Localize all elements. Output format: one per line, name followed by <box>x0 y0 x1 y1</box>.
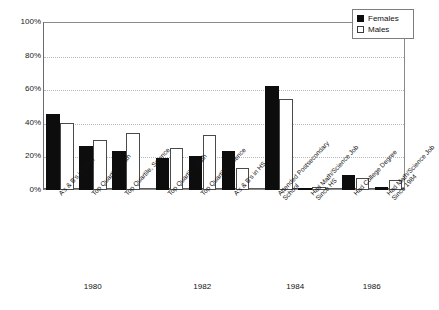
group-year-labels: 1980198219841986 <box>0 282 420 298</box>
y-tick-label: 60% <box>3 85 41 93</box>
y-tick-label: 80% <box>3 52 41 60</box>
legend: Females Males <box>352 9 414 39</box>
year-label: 1980 <box>84 282 102 291</box>
bar-females <box>46 114 60 190</box>
legend-swatch-females-icon <box>357 15 364 22</box>
legend-label-males: Males <box>368 26 389 34</box>
bar-females <box>265 86 279 190</box>
category-axis-labels: A's & B's in MathTop Quartile, MathTop Q… <box>0 190 420 260</box>
legend-label-females: Females <box>368 15 399 23</box>
y-tick-label: 40% <box>3 119 41 127</box>
year-label: 1984 <box>286 282 304 291</box>
year-label: 1982 <box>193 282 211 291</box>
legend-entry-females: Females <box>357 13 409 24</box>
legend-swatch-males-icon <box>357 26 364 33</box>
bar-females <box>342 175 356 190</box>
y-tick-label: 100% <box>3 18 41 26</box>
y-tick-label: 20% <box>3 152 41 160</box>
y-axis-tick-labels: 0%20%40%60%80%100% <box>0 0 41 212</box>
year-label: 1986 <box>363 282 381 291</box>
legend-entry-males: Males <box>357 24 409 35</box>
